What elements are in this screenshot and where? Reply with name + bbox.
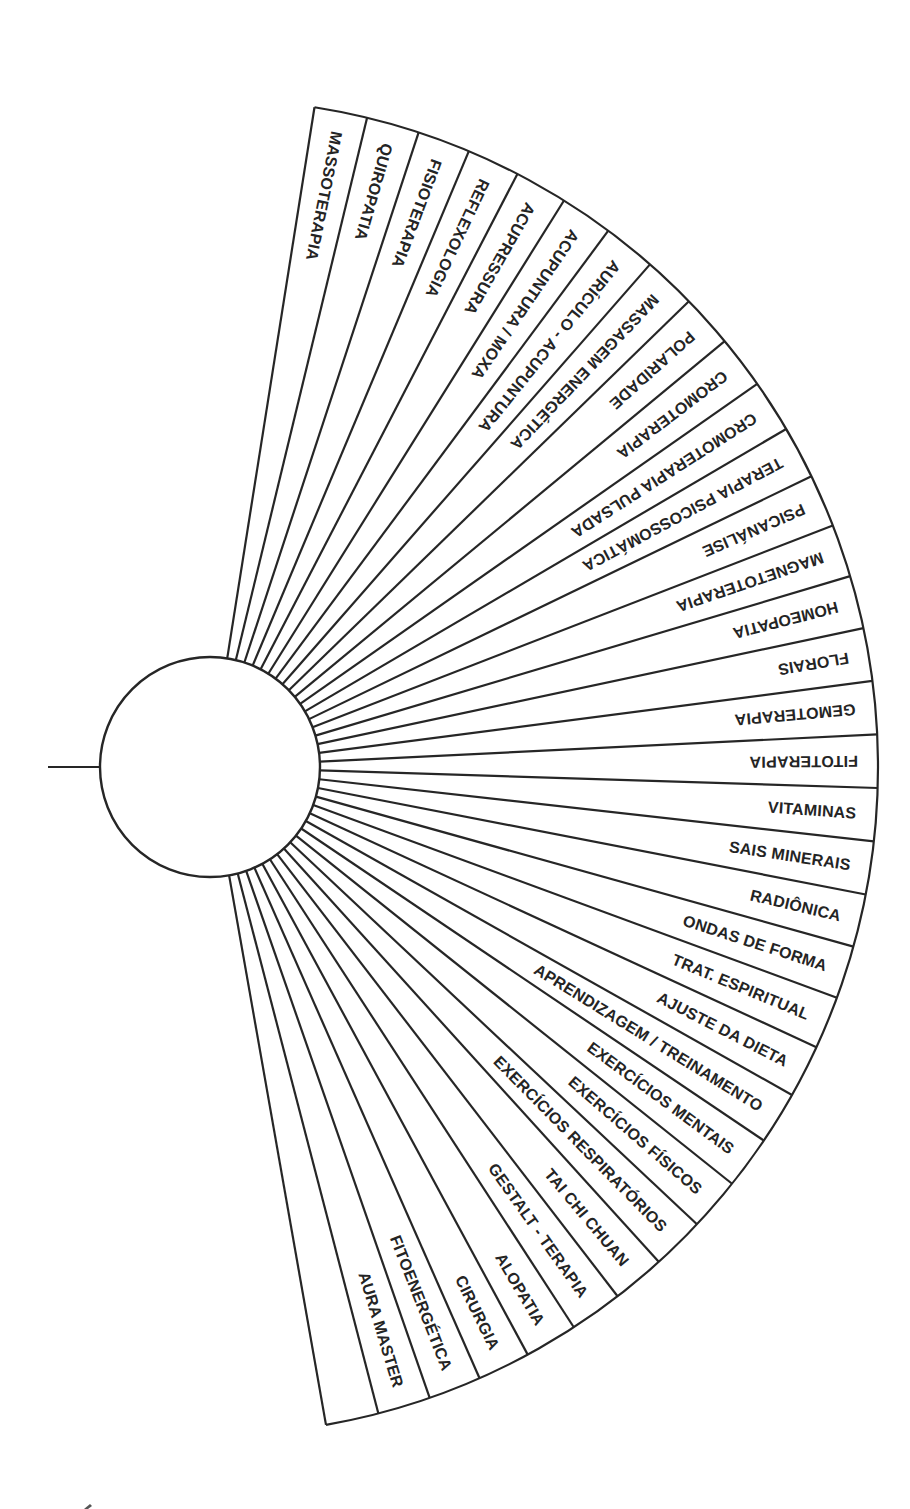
wedge-divider-line: [238, 873, 379, 1413]
wedge-label: FLORAIS: [777, 649, 851, 678]
wedge-segment: GESTALT - TERAPIA: [485, 1160, 592, 1301]
wedge-divider-line: [276, 231, 609, 679]
scan-artifact-mark: [84, 1504, 92, 1509]
wedge-divider-line: [227, 107, 314, 658]
wedge-segment: ALOPATIA: [492, 1250, 548, 1329]
radial-fan-diagram: MASSOTERAPIAQUIROPATIAFISIOTERAPIAREFLEX…: [0, 0, 910, 1509]
wedge-divider-line: [236, 118, 367, 660]
wedge-segment: GEMOTERAPIA: [734, 701, 857, 729]
wedge-divider-line: [262, 864, 527, 1355]
wedge-divider-line: [318, 628, 864, 744]
wedge-segment: EXERCÍCIOS FÍSICOS: [565, 1072, 706, 1197]
wedge-segment: PSICANÁLISE: [700, 501, 808, 561]
wedge-segment: SAIS MINERAIS: [728, 838, 852, 873]
wedge-divider-line: [277, 854, 617, 1296]
wedge-label: GESTALT - TERAPIA: [485, 1160, 592, 1301]
wedge-label: CIRURGIA: [452, 1273, 503, 1353]
wedge-label: VITAMINAS: [767, 799, 857, 822]
wedge-segment: ACUPUNTURA / MOXA: [468, 227, 582, 383]
wedge-divider-line: [320, 770, 878, 788]
wedge-segment: FITOTERAPIA: [749, 753, 858, 771]
wedge-label: SAIS MINERAIS: [728, 838, 852, 873]
wedge-label: EXERCÍCIOS FÍSICOS: [565, 1072, 706, 1197]
wedge-segment: CIRURGIA: [452, 1273, 503, 1353]
wedge-label-group: MASSOTERAPIAQUIROPATIAFISIOTERAPIAREFLEX…: [303, 130, 858, 1390]
wedge-divider-line: [244, 132, 418, 662]
wedge-segment: MASSOTERAPIA: [303, 130, 345, 262]
wedge-segment: FLORAIS: [777, 649, 851, 678]
wedge-label: FISIOTERAPIA: [389, 157, 445, 270]
wedge-label: RADIÔNICA: [749, 886, 843, 925]
wedge-divider-line: [282, 264, 650, 684]
wedge-label: FITOTERAPIA: [749, 753, 858, 771]
wedge-segment: RADIÔNICA: [749, 886, 843, 925]
wedge-label: AURA MASTER: [355, 1270, 406, 1390]
center-hub-circle: [100, 657, 320, 877]
wedge-divider-line: [305, 429, 786, 711]
wedge-segment: AURA MASTER: [355, 1270, 406, 1390]
wedge-label: PSICANÁLISE: [700, 501, 808, 561]
wedge-label: ALOPATIA: [492, 1250, 548, 1329]
wedge-label: ACUPUNTURA / MOXA: [468, 227, 582, 383]
wedge-label: GEMOTERAPIA: [734, 701, 857, 729]
wedge-label: MASSOTERAPIA: [303, 130, 345, 262]
wedge-segment: FISIOTERAPIA: [389, 157, 445, 270]
wedge-segment: VITAMINAS: [767, 799, 857, 822]
